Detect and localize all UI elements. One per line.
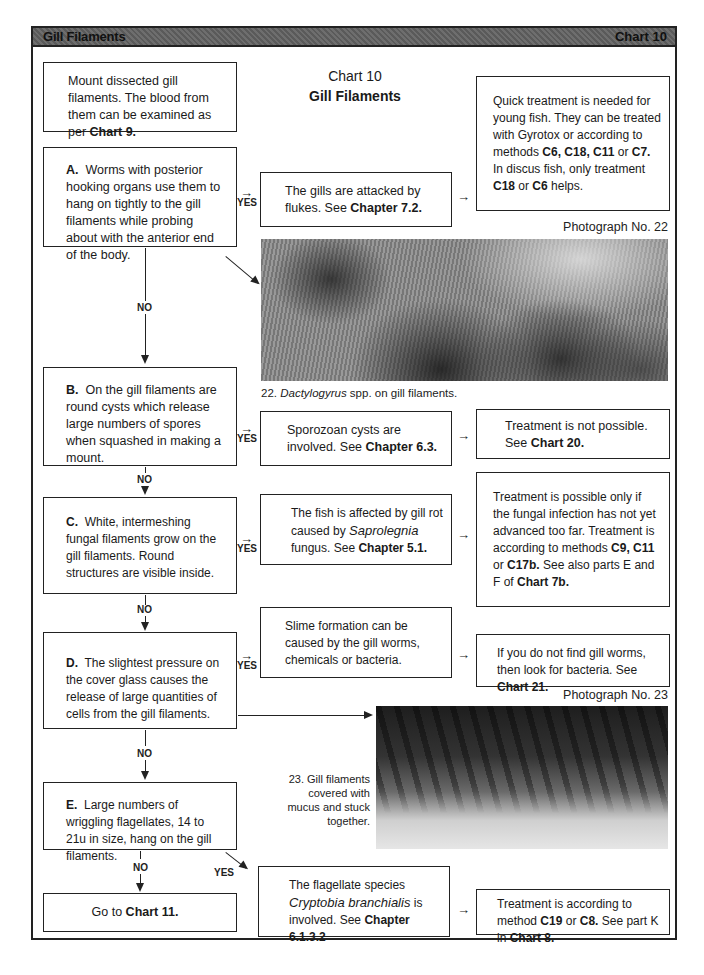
result-e-species: Cryptobia branchialis — [289, 895, 410, 910]
treatment-e-ref: Chart 8. — [510, 931, 555, 945]
final-text: Go to — [92, 905, 126, 919]
arrow-right-icon: → — [457, 650, 470, 660]
yes-label-e: YES — [214, 867, 234, 878]
final-box: Go to Chart 11. — [43, 893, 237, 932]
treatment-box-a: Quick treatment is needed for young fish… — [476, 76, 670, 211]
arrow-right-icon — [364, 711, 373, 719]
question-box-a: A. Worms with posterior hooking organs u… — [43, 147, 237, 247]
question-c-text: White, intermeshing fungal filaments gro… — [66, 515, 216, 580]
question-box-e: E. Large numbers of wriggling flagellate… — [43, 782, 237, 850]
result-d-text: Slime formation can be caused by the gil… — [285, 619, 420, 667]
treatment-a-text: or — [614, 145, 631, 159]
caption-text: spp. on gill filaments. — [347, 387, 458, 399]
question-box-c: C. White, intermeshing fungal filaments … — [43, 497, 237, 594]
step-letter-e: E. — [66, 798, 77, 812]
result-c-text: fungus. See — [291, 541, 358, 555]
treatment-b-ref: Chart 20. — [531, 436, 585, 450]
intro-ref: Chart 9. — [90, 125, 137, 139]
result-a-ref: Chapter 7.2. — [350, 201, 422, 215]
treatment-c-ref: C17b. — [507, 558, 540, 572]
step-letter-b: B. — [66, 383, 79, 397]
result-c-ref: Chapter 5.1. — [358, 541, 427, 555]
photo-22-caption: 22. Dactylogyrus spp. on gill filaments. — [261, 387, 457, 399]
treatment-e-ref: C8. — [580, 914, 599, 928]
no-line-d — [145, 730, 146, 746]
chart-heading-number: Chart 10 — [280, 66, 430, 86]
chart-heading-title: Gill Filaments — [280, 86, 430, 106]
treatment-e-ref: C19 — [540, 914, 562, 928]
treatment-d-ref: Chart 21. — [497, 680, 548, 694]
photo-23-label: Photograph No. 23 — [560, 688, 668, 702]
treatment-a-ref: C6 — [532, 179, 547, 193]
result-box-c: The fish is affected by gill rot caused … — [260, 494, 452, 565]
arrow-right-icon: → — [457, 905, 470, 915]
step-letter-a: A. — [66, 163, 79, 177]
treatment-c-ref: Chart 7b. — [517, 575, 569, 589]
no-label-a: NO — [137, 301, 152, 314]
caption-species: Dactylogyrus — [280, 387, 346, 399]
arrow-down-icon — [141, 771, 149, 780]
arrow-down-icon — [141, 486, 149, 495]
treatment-e-text: or — [562, 914, 579, 928]
arrow-down-icon — [141, 355, 149, 364]
arrow-right-icon: → — [457, 192, 470, 202]
treatment-a-ref: C7. — [632, 145, 651, 159]
treatment-a-ref: C18 — [493, 179, 515, 193]
question-d-text: The slightest pressure on the cover glas… — [66, 656, 219, 721]
photo-22-label: Photograph No. 22 — [560, 220, 668, 234]
treatment-a-text: or — [515, 179, 532, 193]
photo-22-dactylogyrus — [261, 239, 668, 381]
caption-number: 22. — [261, 387, 280, 399]
result-c-species: Saprolegnia — [349, 523, 418, 538]
arrow-right-icon: → — [457, 530, 470, 540]
result-box-d: Slime formation can be caused by the gil… — [260, 607, 452, 678]
result-box-e: The flagellate species Cryptobia branchi… — [258, 866, 450, 937]
no-label-b: NO — [137, 474, 152, 485]
treatment-c-ref: C9, C11 — [611, 541, 654, 555]
result-box-a: The gills are attacked by flukes. See Ch… — [260, 172, 452, 227]
treatment-box-e: Treatment is according to method C19 or … — [476, 889, 670, 935]
yes-label-c: YES — [237, 543, 257, 554]
result-box-b: Sporozoan cysts are involved. See Chapte… — [260, 411, 452, 466]
yes-label-b: YES — [237, 433, 257, 444]
arrow-down-icon — [141, 622, 149, 631]
step-letter-d: D. — [66, 656, 78, 670]
no-label-d: NO — [137, 748, 152, 759]
treatment-a-ref: C6, C18, C11 — [542, 145, 614, 159]
arrow-to-photo-23-line — [238, 715, 366, 716]
header-bar: Gill Filaments Chart 10 — [31, 26, 677, 47]
treatment-box-d: If you do not find gill worms, then look… — [476, 634, 670, 687]
chart-heading: Chart 10 Gill Filaments — [280, 66, 430, 106]
yes-label-a: YES — [237, 197, 257, 208]
treatment-box-c: Treatment is possible only if the fungal… — [476, 472, 670, 607]
treatment-box-b: Treatment is not possible. See Chart 20. — [476, 409, 670, 459]
intro-box: Mount dissected gill filaments. The bloo… — [43, 62, 237, 132]
result-b-ref: Chapter 6.3. — [366, 440, 438, 454]
result-e-text: The flagellate species — [289, 878, 405, 892]
no-line-e — [140, 851, 141, 859]
yes-label-d: YES — [237, 660, 257, 671]
question-box-b: B. On the gill filaments are round cysts… — [43, 367, 237, 466]
question-box-d: D. The slightest pressure on the cover g… — [43, 632, 237, 729]
question-b-text: On the gill filaments are round cysts wh… — [66, 383, 221, 465]
no-label-c: NO — [137, 604, 152, 615]
step-letter-c: C. — [66, 515, 78, 529]
arrow-right-icon: → — [457, 431, 470, 441]
header-title: Gill Filaments — [43, 29, 125, 44]
final-ref: Chart 11. — [126, 905, 179, 919]
photo-23-gill-mucus — [376, 706, 668, 849]
no-line-b — [145, 467, 146, 473]
treatment-a-text: In discus fish, only treatment — [493, 162, 645, 176]
header-chart-label: Chart 10 — [615, 29, 667, 44]
treatment-c-text: or — [493, 558, 507, 572]
treatment-a-text: helps. — [548, 179, 583, 193]
no-label-e: NO — [133, 862, 148, 873]
treatment-d-text: If you do not find gill worms, then look… — [497, 646, 646, 677]
arrow-down-icon — [136, 883, 144, 892]
photo-23-caption: 23. Gill filaments covered with mucus an… — [284, 772, 370, 828]
